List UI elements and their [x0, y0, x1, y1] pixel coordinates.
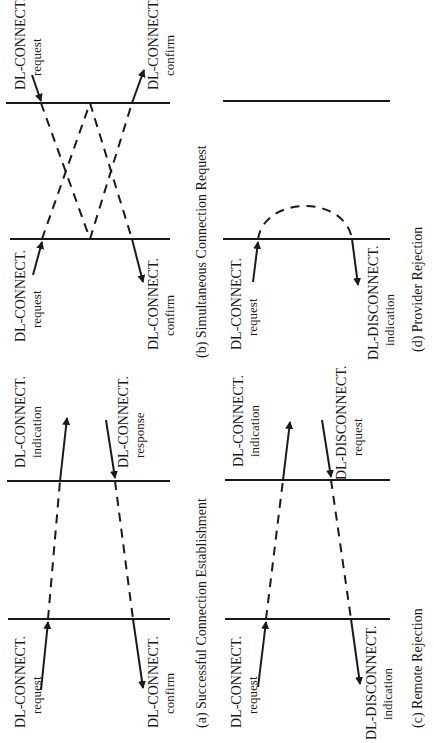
label-line1: DL-CONNECT.	[146, 0, 161, 90]
label-line1: DL-CONNECT.	[229, 636, 244, 728]
label-line1: DL-CONNECT.	[231, 375, 246, 467]
arrow-request	[253, 242, 258, 282]
label-line1: DL-DISCONNECT.	[364, 626, 379, 740]
arrow-indication	[283, 422, 290, 480]
panel-d-provider-rejection: DL-CONNECT. request DL-DISCONNECT. indic…	[223, 101, 426, 360]
arrow-confirm-right	[132, 70, 144, 103]
figure-canvas: DL-CONNECT. request DL-CONNECT. confirm …	[0, 0, 434, 743]
arrow-disconnect-request	[322, 420, 331, 477]
arrow-response	[106, 420, 115, 478]
label-line2: indication	[247, 405, 262, 457]
dashed-flow	[266, 480, 283, 619]
arrow-confirm-left	[132, 239, 143, 282]
label-line1: DL-DISCONNECT.	[334, 366, 349, 480]
label-line2: confirm	[162, 295, 177, 336]
arrow-disconnect-indication	[352, 239, 358, 285]
label-line2: confirm	[162, 35, 177, 76]
panel-a-successful-connection: DL-CONNECT. indication DL-CONNECT. respo…	[7, 376, 210, 728]
arrow-indication	[60, 418, 67, 481]
arrow-request-left	[33, 242, 42, 275]
label-line1: DL-CONNECT.	[13, 250, 28, 342]
panel-caption: (b) Simultaneous Connection Request	[194, 145, 210, 358]
label-line2: confirm	[162, 673, 177, 714]
label-line2: response	[132, 412, 147, 458]
dashed-provider-loop	[258, 206, 352, 239]
label-line1: DL-DISCONNECT.	[366, 246, 381, 360]
arrow-confirm	[133, 619, 143, 688]
dashed-flow	[48, 481, 60, 619]
label-line2: request	[245, 676, 260, 714]
label-line1: DL-CONNECT.	[13, 0, 28, 90]
label-line1: DL-CONNECT.	[146, 636, 161, 728]
label-line1: DL-CONNECT.	[116, 376, 131, 468]
dashed-flow	[115, 481, 133, 619]
panel-caption: (a) Successful Connection Establishment	[194, 498, 210, 728]
label-line2: request	[29, 290, 44, 328]
panel-caption: (d) Provider Rejection	[410, 227, 426, 352]
label-line2: indication	[380, 668, 395, 720]
panel-c-remote-rejection: DL-CONNECT. indication DL-DISCONNECT. re…	[225, 366, 426, 740]
panel-b-simultaneous-connection: DL-CONNECT. request DL-CONNECT. confirm …	[6, 0, 210, 358]
arrow-disconnect-indication	[351, 619, 360, 684]
label-line2: request	[29, 676, 44, 714]
label-line2: indication	[29, 406, 44, 458]
label-line1: DL-CONNECT.	[146, 258, 161, 350]
label-line2: indication	[382, 294, 397, 346]
arrow-request-right	[32, 75, 41, 101]
label-line1: DL-CONNECT.	[229, 258, 244, 350]
panel-caption: (c) Remote Rejection	[410, 608, 426, 728]
dashed-flow	[331, 480, 351, 619]
label-line2: request	[245, 298, 260, 336]
label-line2: request	[350, 418, 365, 456]
label-line2: request	[29, 38, 44, 76]
label-line1: DL-CONNECT.	[13, 636, 28, 728]
label-line1: DL-CONNECT.	[13, 376, 28, 468]
